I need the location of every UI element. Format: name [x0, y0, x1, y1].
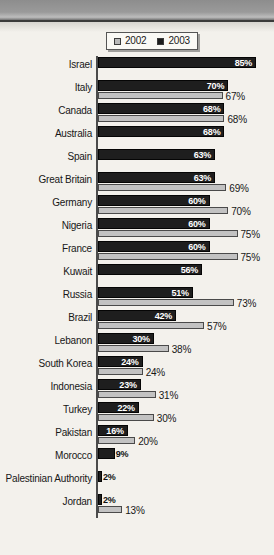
bar-value-label-2003: 51% [171, 288, 188, 298]
category-label: Lebanon [0, 335, 92, 346]
bar-2002: 38% [98, 345, 169, 352]
bar-value-label-2002: 31% [159, 390, 178, 401]
bar-row: Indonesia23%31% [0, 378, 274, 401]
bar-2002: 75% [98, 253, 238, 260]
category-label: Canada [0, 105, 92, 116]
plot-area: Israel85%Italy70%67%Canada68%68%Australi… [0, 56, 274, 516]
bar-2002: 24% [98, 368, 143, 375]
bar-2003: 56% [98, 264, 202, 275]
legend-label-2002: 2002 [125, 36, 146, 46]
bar-group: 23%31% [98, 379, 156, 398]
bar-group: 24%24% [98, 356, 143, 375]
legend-item-2002: 2002 [114, 36, 146, 46]
bar-value-label-2002: 30% [157, 413, 176, 424]
bar-row: Nigeria60%75% [0, 217, 274, 240]
bar-row: Australia68% [0, 125, 274, 148]
legend-swatch-2003-icon [157, 38, 164, 45]
bar-value-label-2002: 24% [146, 367, 165, 378]
bar-row: Spain63% [0, 148, 274, 171]
bar-group: 16%20% [98, 425, 135, 444]
bar-row: Lebanon30%38% [0, 332, 274, 355]
scan-artifact-band [0, 0, 274, 22]
bar-2003: 63% [98, 149, 215, 160]
bar-group: 56% [98, 264, 202, 275]
bar-2002: 31% [98, 391, 156, 398]
bar-group: 68% [98, 126, 224, 137]
bar-row: South Korea24%24% [0, 355, 274, 378]
bar-row: Morocco9% [0, 447, 274, 470]
category-label: Australia [0, 128, 92, 139]
bar-2003: 30% [98, 333, 154, 344]
bar-group: 63%69% [98, 172, 226, 191]
bar-value-label-2003: 70% [207, 81, 224, 91]
legend-label-2003: 2003 [168, 36, 189, 46]
bar-value-label-2003: 30% [132, 334, 149, 344]
bar-group: 9% [98, 448, 115, 459]
bar-group: 85% [98, 57, 256, 68]
bar-2002: 13% [98, 506, 122, 513]
bar-2002: 67% [98, 92, 223, 99]
bar-group: 63% [98, 149, 215, 160]
bar-value-label-2002: 70% [231, 206, 250, 217]
bar-value-label-2002: 67% [226, 91, 245, 102]
bar-2002: 57% [98, 322, 204, 329]
bar-value-label-2003: 24% [121, 357, 138, 367]
bar-2003: 42% [98, 310, 176, 321]
bar-row: Pakistan16%20% [0, 424, 274, 447]
bar-value-label-2003: 60% [188, 242, 205, 252]
bar-2002: 30% [98, 414, 154, 421]
legend-item-2003: 2003 [157, 36, 189, 46]
category-label: South Korea [0, 358, 92, 369]
bar-value-label-2002: 75% [241, 229, 260, 240]
bar-value-label-2002: 75% [241, 252, 260, 263]
bar-2002: 70% [98, 207, 228, 214]
bar-chart: 2002 2003 Israel85%Italy70%67%Canada68%6… [0, 22, 274, 555]
bar-2002: 75% [98, 230, 238, 237]
category-label: Indonesia [0, 381, 92, 392]
bar-row: Israel85% [0, 56, 274, 79]
bar-2003: 2% [98, 494, 102, 505]
bar-2003: 23% [98, 379, 141, 390]
bar-2002: 69% [98, 184, 226, 191]
bar-row: Great Britain63%69% [0, 171, 274, 194]
legend-swatch-2002-icon [114, 38, 121, 45]
bar-group: 2%13% [98, 494, 122, 513]
bar-2003: 63% [98, 172, 215, 183]
bar-row: Canada68%68% [0, 102, 274, 125]
category-label: Kuwait [0, 266, 92, 277]
bar-2003: 51% [98, 287, 193, 298]
bar-value-label-2002: 69% [229, 183, 248, 194]
bar-value-label-2003: 68% [203, 104, 220, 114]
category-label: Spain [0, 151, 92, 162]
bar-group: 51%73% [98, 287, 234, 306]
category-label: Great Britain [0, 174, 92, 185]
category-label: Israel [0, 59, 92, 70]
bar-row: France60%75% [0, 240, 274, 263]
bar-row: Germany60%70% [0, 194, 274, 217]
bar-value-label-2003: 42% [155, 311, 172, 321]
bar-2003: 60% [98, 241, 210, 252]
bar-row: Russia51%73% [0, 286, 274, 309]
category-label: Pakistan [0, 427, 92, 438]
bar-value-label-2003: 56% [181, 265, 198, 275]
bar-value-label-2002: 57% [207, 321, 226, 332]
category-label: France [0, 243, 92, 254]
bar-value-label-2003: 60% [188, 219, 205, 229]
category-label: Germany [0, 197, 92, 208]
bar-row: Kuwait56% [0, 263, 274, 286]
bar-2003: 24% [98, 356, 143, 367]
bar-value-label-2003: 68% [203, 127, 220, 137]
bar-value-label-2003: 9% [116, 449, 129, 459]
bar-group: 2% [98, 471, 102, 482]
bar-value-label-2003: 63% [194, 173, 211, 183]
bar-2003: 60% [98, 218, 210, 229]
category-label: Jordan [0, 496, 92, 507]
bar-group: 42%57% [98, 310, 204, 329]
bar-group: 70%67% [98, 80, 228, 99]
bar-value-label-2002: 20% [138, 436, 157, 447]
category-label: Brazil [0, 312, 92, 323]
category-label: Italy [0, 82, 92, 93]
bar-group: 60%75% [98, 218, 238, 237]
bar-value-label-2003: 22% [117, 403, 134, 413]
bar-2002: 68% [98, 115, 224, 122]
